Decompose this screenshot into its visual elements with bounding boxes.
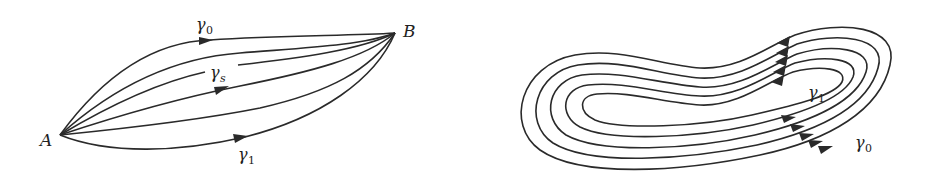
arrow-icon <box>777 36 790 47</box>
label-B: B <box>402 21 416 41</box>
svg-text:γ: γ <box>855 133 865 152</box>
svg-text:1: 1 <box>248 154 255 167</box>
loop-intermediate-1 <box>536 38 879 159</box>
arrow-icon <box>781 115 796 123</box>
label-A: A <box>38 130 52 150</box>
svg-text:γ: γ <box>196 15 206 34</box>
arrow-icon <box>771 75 784 86</box>
arrow-icon <box>818 146 833 154</box>
path-gamma-s <box>60 72 205 135</box>
diagram-canvas: A B γ 0 γ s γ 1 <box>0 0 929 186</box>
svg-text:γ: γ <box>238 145 248 164</box>
arrow-icon <box>776 46 789 57</box>
svg-text:0: 0 <box>865 142 872 155</box>
figure-homotopy-paths: A B γ 0 γ s γ 1 <box>38 15 416 167</box>
svg-text:0: 0 <box>206 24 213 37</box>
label-gamma-0: γ 0 <box>196 15 213 37</box>
svg-text:γ: γ <box>210 63 220 82</box>
label-gamma-0-loop: γ 0 <box>855 133 872 155</box>
svg-text:s: s <box>220 72 226 85</box>
path-gamma-1 <box>60 33 395 149</box>
svg-text:γ: γ <box>808 83 818 102</box>
label-gamma-1: γ 1 <box>238 145 255 167</box>
figure-homotopy-loops: γ 1 γ 0 <box>521 27 891 169</box>
svg-text:1: 1 <box>818 92 825 105</box>
label-gamma-1-loop: γ 1 <box>808 83 825 105</box>
arrow-icon <box>233 134 248 143</box>
arrow-icon <box>773 65 786 76</box>
arrow-icon <box>199 37 213 45</box>
arrow-icon <box>214 86 229 95</box>
label-gamma-s: γ s <box>210 63 226 85</box>
